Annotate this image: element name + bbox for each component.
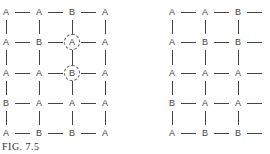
horizontal-edge <box>214 103 229 104</box>
vertical-edge <box>205 50 206 65</box>
horizontal-edge <box>48 73 63 74</box>
horizontal-edge <box>15 133 30 134</box>
right-grid-node: B <box>200 37 210 47</box>
left-grid-node: A <box>100 128 110 138</box>
horizontal-edge <box>81 42 96 43</box>
vertical-edge <box>72 111 73 125</box>
left-grid-node: A <box>1 128 11 138</box>
right-grid-node: B <box>233 7 243 17</box>
left-grid-node: B <box>67 128 77 138</box>
horizontal-edge <box>247 103 262 104</box>
horizontal-edge <box>15 103 30 104</box>
right-grid-node: A <box>167 128 177 138</box>
vertical-edge <box>205 111 206 125</box>
left-grid-node: B <box>34 128 44 138</box>
left-grid-node: A <box>1 7 11 17</box>
vertical-edge <box>238 50 239 65</box>
left-grid-node: A <box>34 7 44 17</box>
horizontal-edge <box>181 42 196 43</box>
right-grid-node: B <box>167 98 177 108</box>
vertical-edge <box>39 20 40 34</box>
horizontal-edge <box>181 133 196 134</box>
vertical-edge <box>105 111 106 125</box>
horizontal-edge <box>48 12 63 13</box>
horizontal-edge <box>48 42 63 43</box>
right-grid-node: A <box>167 37 177 47</box>
horizontal-edge <box>15 73 30 74</box>
figure-caption: FIG. 7.5 <box>2 141 40 152</box>
horizontal-edge <box>181 12 196 13</box>
vertical-edge <box>6 20 7 34</box>
right-grid-node: A <box>167 7 177 17</box>
right-grid-node: A <box>200 68 210 78</box>
vertical-edge <box>205 81 206 95</box>
horizontal-edge <box>214 12 229 13</box>
left-grid-node: A <box>34 98 44 108</box>
vertical-edge <box>105 81 106 95</box>
left-grid-node: A <box>67 98 77 108</box>
horizontal-edge <box>81 12 96 13</box>
vertical-edge <box>172 20 173 34</box>
vertical-edge <box>238 111 239 125</box>
right-grid-node: B <box>200 128 210 138</box>
right-grid-node: A <box>167 68 177 78</box>
vertical-edge <box>6 81 7 95</box>
horizontal-edge <box>214 42 229 43</box>
vertical-edge <box>238 20 239 34</box>
right-grid-node: A <box>233 68 243 78</box>
left-grid-node: B <box>67 68 77 78</box>
vertical-edge <box>205 20 206 34</box>
right-grid-node: B <box>233 37 243 47</box>
vertical-edge <box>39 81 40 95</box>
vertical-edge <box>72 20 73 34</box>
vertical-edge <box>105 50 106 65</box>
horizontal-edge <box>48 103 63 104</box>
left-grid-node: A <box>1 37 11 47</box>
horizontal-edge <box>181 73 196 74</box>
left-grid-node: A <box>100 98 110 108</box>
right-grid-node: B <box>233 128 243 138</box>
vertical-edge <box>39 111 40 125</box>
left-grid-node: B <box>67 7 77 17</box>
horizontal-edge <box>247 12 262 13</box>
left-grid-node: B <box>34 37 44 47</box>
horizontal-edge <box>247 42 262 43</box>
horizontal-edge <box>247 133 262 134</box>
horizontal-edge <box>214 73 229 74</box>
horizontal-edge <box>48 133 63 134</box>
left-grid-node: A <box>67 37 77 47</box>
left-grid-node: A <box>100 68 110 78</box>
horizontal-edge <box>181 103 196 104</box>
horizontal-edge <box>15 12 30 13</box>
vertical-edge <box>6 50 7 65</box>
horizontal-edge <box>81 133 96 134</box>
horizontal-edge <box>81 103 96 104</box>
vertical-edge <box>6 111 7 125</box>
left-grid-node: A <box>100 37 110 47</box>
vertical-edge <box>172 81 173 95</box>
left-grid-node: B <box>1 98 11 108</box>
horizontal-edge <box>81 73 96 74</box>
vertical-edge <box>172 111 173 125</box>
right-grid-node: A <box>200 7 210 17</box>
vertical-edge <box>39 50 40 65</box>
vertical-edge <box>105 20 106 34</box>
vertical-edge <box>72 81 73 95</box>
right-grid-node: A <box>233 98 243 108</box>
left-grid-node: A <box>100 7 110 17</box>
left-grid-node: A <box>1 68 11 78</box>
vertical-edge <box>172 50 173 65</box>
left-grid-node: A <box>34 68 44 78</box>
horizontal-edge <box>214 133 229 134</box>
horizontal-edge <box>15 42 30 43</box>
right-grid-node: A <box>200 98 210 108</box>
vertical-edge <box>72 50 73 65</box>
vertical-edge <box>238 81 239 95</box>
horizontal-edge <box>247 73 262 74</box>
